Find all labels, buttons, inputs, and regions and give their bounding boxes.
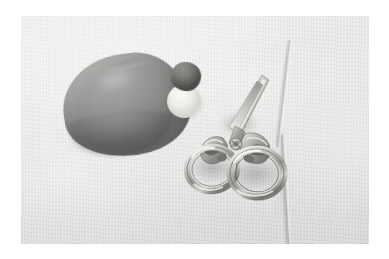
image-description: Black and white photograph of sewing ite… bbox=[0, 16, 1, 17]
scissors-pivot bbox=[230, 138, 242, 150]
photograph bbox=[21, 16, 369, 244]
image-title: Needlework tools on light fabric bbox=[0, 21, 1, 22]
scissors-object bbox=[179, 68, 309, 198]
image-canvas: Needlework tools on light fabric Black a… bbox=[0, 0, 389, 259]
background-label: Fabric bbox=[0, 0, 1, 1]
lighting-note: Soft shadow falls to the lower right of … bbox=[0, 0, 1, 1]
